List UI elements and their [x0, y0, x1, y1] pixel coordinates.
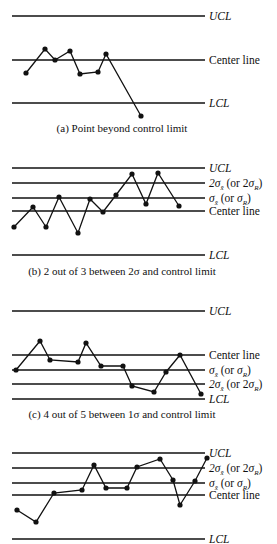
control-line-label: LCL [208, 97, 229, 109]
control-line-label: Center line [209, 489, 260, 501]
data-series [16, 341, 201, 394]
control-line-label: UCL [209, 10, 231, 22]
panel-caption: (a) Point beyond control limit [57, 122, 188, 135]
control-line-label: 2σx̄ (or 2σR) [209, 177, 262, 192]
control-line-label: LCL [208, 393, 229, 405]
data-point [177, 352, 182, 357]
data-point [103, 485, 108, 490]
data-point [176, 203, 181, 208]
data-point [51, 490, 56, 495]
panel-b: UCL2σx̄ (or 2σR)σx̄ (or σR)Center lineLC… [11, 162, 262, 278]
data-point [177, 502, 182, 507]
data-point [30, 204, 35, 209]
control-line-label: Center line [209, 54, 260, 66]
data-point [129, 383, 134, 388]
control-line-label: Center line [209, 349, 260, 361]
data-point [83, 340, 88, 345]
data-point [75, 230, 80, 235]
data-point [151, 389, 156, 394]
control-chart-patterns-figure: UCLCenter lineLCL(a) Point beyond contro… [0, 0, 277, 544]
data-point [138, 113, 143, 118]
data-point [129, 171, 134, 176]
data-point [91, 462, 96, 467]
data-point [33, 519, 38, 524]
data-point [204, 455, 209, 460]
data-point [103, 51, 108, 56]
data-point [100, 209, 105, 214]
data-point [11, 224, 16, 229]
data-point [13, 367, 18, 372]
data-series [26, 49, 141, 116]
data-point [43, 224, 48, 229]
control-line-label: Center line [209, 205, 260, 217]
data-point [23, 70, 28, 75]
data-point [134, 464, 139, 469]
control-line-label: UCL [209, 305, 231, 317]
data-point [157, 456, 162, 461]
panel-caption: (b) 2 out of 3 between 2σ and control li… [28, 265, 216, 278]
control-line-label: UCL [209, 447, 231, 459]
data-point [75, 359, 80, 364]
data-point [95, 69, 100, 74]
panel-c: UCLCenter lineσx̄ (or σR)2σx̄ (or 2σR)LC… [12, 305, 262, 421]
data-series [14, 173, 179, 233]
data-point [98, 363, 103, 368]
data-point [143, 201, 148, 206]
data-point [170, 477, 175, 482]
data-point [52, 57, 57, 62]
data-point [47, 357, 52, 362]
data-point [163, 369, 168, 374]
data-point [37, 338, 42, 343]
control-line-label: LCL [208, 533, 229, 544]
data-point [113, 192, 118, 197]
control-line-label: 2σx̄ (or 2σR) [209, 378, 262, 393]
data-point [42, 46, 47, 51]
data-point [14, 507, 19, 512]
data-point [87, 196, 92, 201]
data-point [155, 170, 160, 175]
data-point [192, 478, 197, 483]
control-line-label: LCL [208, 249, 229, 261]
data-point [79, 487, 84, 492]
control-line-label: σx̄ (or σR) [209, 364, 251, 379]
data-point [120, 363, 125, 368]
panel-a: UCLCenter lineLCL(a) Point beyond contro… [12, 10, 260, 135]
control-line-label: UCL [209, 162, 231, 174]
control-line-label: 2σx̄ (or 2σR) [209, 462, 262, 477]
data-point [67, 48, 72, 53]
data-point [77, 71, 82, 76]
data-point [124, 485, 129, 490]
data-point [56, 194, 61, 199]
panel-caption: (c) 4 out of 5 between 1σ and control li… [28, 408, 215, 421]
data-point [198, 391, 203, 396]
panel-d: UCL2σx̄ (or 2σR)σx̄ (or σR)Center lineLC… [12, 447, 262, 544]
